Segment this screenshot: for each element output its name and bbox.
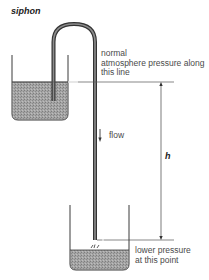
outflow-splash xyxy=(91,245,99,249)
lower-water xyxy=(71,250,129,270)
height-label: h xyxy=(165,151,171,161)
siphon-diagram xyxy=(0,0,209,280)
flow-label: flow xyxy=(109,131,124,141)
upper-line-label: normal atmosphere pressure along this li… xyxy=(101,49,204,78)
siphon-tube xyxy=(54,24,96,240)
upper-water xyxy=(13,82,68,120)
lower-point-label: lower pressure at this point xyxy=(135,246,191,265)
